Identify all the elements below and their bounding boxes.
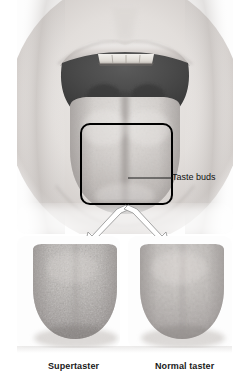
normal-taster-highlight (151, 251, 207, 285)
normal-taster-panel (128, 236, 232, 348)
supertaster-caption: Supertaster (48, 361, 99, 371)
tongue-dorsum-highlight-left (82, 110, 126, 146)
taste-buds-label: Taste buds (172, 172, 216, 182)
upper-teeth (98, 54, 154, 66)
supertaster-panel (17, 236, 122, 348)
card-strip-shadow (17, 346, 232, 353)
supertaster-highlight (46, 252, 98, 284)
tongue-dorsum-highlight-right (126, 110, 170, 146)
taste-buds-figure (0, 0, 250, 380)
figure-canvas (0, 0, 250, 380)
normal-taster-caption: Normal taster (155, 361, 214, 371)
